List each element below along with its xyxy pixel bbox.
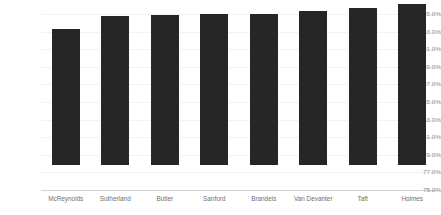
x-tick-label: Butler xyxy=(140,196,190,202)
bar xyxy=(101,16,129,165)
x-axis-line xyxy=(41,190,437,191)
bar xyxy=(349,8,377,165)
bar xyxy=(299,11,327,165)
y-axis xyxy=(0,0,38,215)
x-tick-label: Brandeis xyxy=(239,196,289,202)
x-tick-label: Taft xyxy=(338,196,388,202)
bar xyxy=(200,14,228,165)
x-tick-label: McReynolds xyxy=(41,196,91,202)
x-axis-tick-labels: McReynoldsSutherlandButlerSanfordBrandei… xyxy=(41,193,437,213)
x-tick-label: Holmes xyxy=(388,196,438,202)
x-tick-label: Sutherland xyxy=(91,196,141,202)
x-tick-label: Van Devanter xyxy=(289,196,339,202)
bar xyxy=(250,14,278,165)
x-tick-label: Sanford xyxy=(190,196,240,202)
bars-layer xyxy=(41,0,437,190)
bar-chart: 95.0%93.0%91.0%89.0%87.0%85.0%83.0%81.0%… xyxy=(0,0,441,215)
bar xyxy=(52,29,80,165)
bar xyxy=(398,4,426,165)
bar xyxy=(151,15,179,165)
